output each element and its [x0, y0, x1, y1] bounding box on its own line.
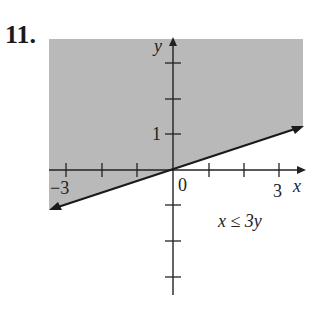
inequality-graph: y x 1 −3 0 3 x ≤ 3y — [0, 0, 312, 327]
y-axis-label: y — [152, 36, 162, 56]
x-axis-label: x — [292, 176, 301, 196]
y-tick-label-1: 1 — [152, 124, 161, 144]
x-tick-label-0: 0 — [178, 175, 187, 195]
x-tick-label-neg3: −3 — [50, 178, 69, 198]
x-tick-label-3: 3 — [273, 181, 282, 201]
shaded-region — [49, 39, 303, 210]
inequality-label: x ≤ 3y — [217, 211, 262, 231]
x-axis-arrow-icon — [297, 166, 306, 174]
